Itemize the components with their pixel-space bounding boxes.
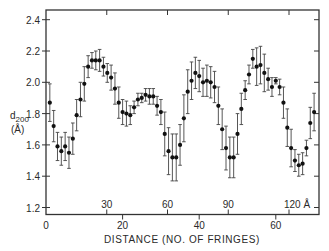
data-point xyxy=(281,87,285,118)
marker xyxy=(147,94,151,98)
data-point xyxy=(117,87,121,118)
y-tick-label: 1.2 xyxy=(26,203,40,214)
marker xyxy=(117,101,121,105)
data-point xyxy=(159,100,163,125)
data-point xyxy=(193,57,197,88)
marker xyxy=(132,105,136,109)
data-point xyxy=(258,46,262,84)
data-point xyxy=(312,93,316,131)
marker xyxy=(155,104,159,108)
data-point xyxy=(132,101,136,114)
data-point xyxy=(216,87,220,125)
marker xyxy=(124,112,128,116)
marker xyxy=(136,97,140,101)
tick-labels: 1.21.41.61.82.02.22.40204060306090120 Å xyxy=(26,15,310,231)
marker xyxy=(98,58,102,62)
marker xyxy=(258,63,262,67)
x-tick-label: 60 xyxy=(270,220,282,231)
data-point xyxy=(71,123,75,154)
data-point xyxy=(105,64,109,83)
data-point xyxy=(67,137,71,168)
data-point xyxy=(182,95,186,142)
data-point xyxy=(78,82,82,116)
marker xyxy=(247,72,251,76)
marker xyxy=(289,146,293,150)
marker xyxy=(293,158,297,162)
marker xyxy=(228,155,232,159)
y-tick-label: 1.6 xyxy=(26,140,40,151)
marker xyxy=(304,146,308,150)
x-tick-label: 20 xyxy=(117,220,129,231)
marker xyxy=(205,79,209,83)
data-point xyxy=(48,84,52,122)
data-point xyxy=(136,93,140,106)
data-point xyxy=(109,65,113,90)
data-point xyxy=(86,56,90,78)
y-axis-unit: (Å) xyxy=(11,123,24,135)
data-point xyxy=(289,129,293,167)
y-axis-label-subscript: 200 xyxy=(16,115,30,124)
data-point xyxy=(205,65,209,96)
marker xyxy=(78,97,82,101)
y-tick-label: 1.4 xyxy=(26,171,40,182)
marker xyxy=(178,143,182,147)
data-point xyxy=(59,137,63,165)
marker xyxy=(52,124,56,128)
data-point xyxy=(209,67,213,98)
marker xyxy=(105,71,109,75)
marker xyxy=(308,121,312,125)
data-point xyxy=(266,68,270,90)
marker xyxy=(270,85,274,89)
data-point xyxy=(75,100,79,131)
data-point xyxy=(170,134,174,181)
data-series xyxy=(48,46,316,181)
marker xyxy=(55,144,59,148)
marker xyxy=(239,107,243,111)
marker xyxy=(235,132,239,136)
marker xyxy=(59,149,63,153)
marker xyxy=(301,162,305,166)
y-tick-label: 2.2 xyxy=(26,46,40,57)
data-point xyxy=(274,78,278,84)
data-point xyxy=(293,150,297,172)
marker xyxy=(285,126,289,130)
data-point xyxy=(297,154,301,176)
data-point xyxy=(304,140,308,156)
data-point xyxy=(52,110,56,141)
data-point xyxy=(243,81,247,100)
marker xyxy=(278,85,282,89)
marker xyxy=(151,94,155,98)
angstrom-tick-label: 120 Å xyxy=(284,198,310,210)
data-point xyxy=(94,51,98,70)
marker xyxy=(220,127,224,131)
marker xyxy=(255,65,259,69)
data-point xyxy=(163,112,167,156)
data-point xyxy=(308,107,312,138)
data-point xyxy=(201,68,205,96)
x-tick-label: 40 xyxy=(194,220,206,231)
marker xyxy=(159,110,163,114)
x-tick-label: 0 xyxy=(43,220,49,231)
axis-ticks xyxy=(42,10,319,220)
data-point xyxy=(151,89,155,105)
plot-frame xyxy=(46,10,319,215)
marker xyxy=(113,86,117,90)
data-point xyxy=(270,78,274,97)
data-point xyxy=(189,62,193,100)
plot-border xyxy=(46,10,319,215)
marker xyxy=(90,58,94,62)
data-point xyxy=(247,65,251,84)
marker xyxy=(186,90,190,94)
data-point xyxy=(166,128,170,175)
data-point xyxy=(224,126,228,170)
marker xyxy=(101,65,105,69)
marker xyxy=(140,96,144,100)
angstrom-tick-label: 30 xyxy=(101,199,113,210)
data-point xyxy=(186,70,190,114)
marker xyxy=(297,163,301,167)
marker xyxy=(48,101,52,105)
data-point xyxy=(101,57,105,76)
data-point xyxy=(228,137,232,178)
data-point xyxy=(55,132,59,160)
data-point xyxy=(251,49,255,68)
